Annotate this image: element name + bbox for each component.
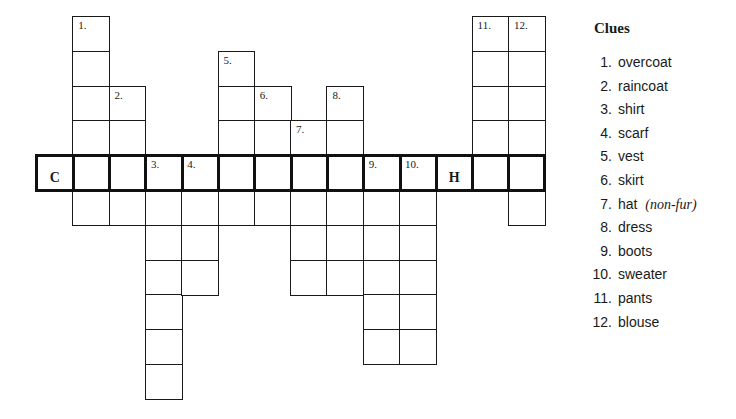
clue-item: 6.skirt (588, 169, 736, 193)
clue-number: 4. (588, 122, 612, 146)
grid-cell[interactable] (508, 155, 546, 191)
grid-cell[interactable]: 3. (145, 155, 183, 191)
grid-cell[interactable] (290, 260, 328, 296)
grid-cell[interactable]: 11. (472, 16, 510, 52)
clue-item: 11.pants (588, 287, 736, 311)
grid-cell[interactable]: 6. (254, 86, 292, 122)
clue-number: 11. (588, 287, 612, 311)
grid-cell[interactable] (254, 120, 292, 156)
grid-cell[interactable]: 12. (508, 16, 546, 52)
grid-cell[interactable] (145, 294, 183, 330)
grid-cell[interactable] (508, 86, 546, 122)
grid-cell[interactable] (363, 329, 401, 365)
grid-cell[interactable]: C (36, 155, 74, 191)
grid-cell[interactable] (254, 190, 292, 226)
grid-cell[interactable] (472, 120, 510, 156)
grid-cell[interactable] (290, 225, 328, 261)
grid-cell[interactable] (363, 190, 401, 226)
clue-item: 10.sweater (588, 263, 736, 287)
grid-cell[interactable]: 7. (290, 120, 328, 156)
grid-cell[interactable] (326, 190, 364, 226)
clue-item: 7.hat (non-fur) (588, 193, 736, 217)
grid-cell[interactable]: H (435, 155, 473, 191)
grid-cell[interactable] (109, 190, 147, 226)
grid-cell[interactable] (181, 190, 219, 226)
grid-cell[interactable]: 1. (72, 16, 110, 52)
grid-cell[interactable]: 9. (363, 155, 401, 191)
grid-cell[interactable] (218, 86, 256, 122)
grid-cell[interactable] (399, 260, 437, 296)
grid-cell[interactable] (109, 155, 147, 191)
grid-cell[interactable] (145, 329, 183, 365)
grid-cell[interactable] (218, 120, 256, 156)
grid-cell[interactable] (508, 120, 546, 156)
clue-number: 1. (588, 51, 612, 75)
clue-text: dress (618, 219, 652, 235)
clue-number: 5. (588, 145, 612, 169)
grid-cell[interactable] (472, 51, 510, 87)
grid-cell[interactable] (181, 260, 219, 296)
grid-cell[interactable] (472, 86, 510, 122)
grid-cell[interactable] (218, 155, 256, 191)
clue-number: 3. (588, 98, 612, 122)
clue-item: 2.raincoat (588, 75, 736, 99)
clue-item: 8.dress (588, 216, 736, 240)
grid-cell[interactable] (326, 225, 364, 261)
grid-cell[interactable] (290, 190, 328, 226)
grid-cell[interactable] (145, 260, 183, 296)
grid-cell[interactable] (145, 364, 183, 400)
clue-text: sweater (618, 266, 667, 282)
clue-number: 7. (588, 193, 612, 217)
grid-cell[interactable] (218, 190, 256, 226)
clue-text: blouse (618, 314, 659, 330)
clue-number: 2. (588, 75, 612, 99)
grid-cell[interactable] (326, 155, 364, 191)
grid-cell[interactable] (109, 120, 147, 156)
clue-number-label: 12. (514, 19, 528, 31)
given-letter: C (37, 170, 73, 186)
grid-cell[interactable] (399, 294, 437, 330)
grid-cell[interactable]: 5. (218, 51, 256, 87)
grid-cell[interactable] (508, 51, 546, 87)
clue-item: 4.scarf (588, 122, 736, 146)
clue-number: 10. (588, 263, 612, 287)
clue-text: skirt (618, 172, 644, 188)
grid-cell[interactable]: 4. (181, 155, 219, 191)
grid-cell[interactable] (72, 86, 110, 122)
grid-cell[interactable] (181, 225, 219, 261)
clue-text: vest (618, 148, 644, 164)
grid-cell[interactable] (399, 329, 437, 365)
grid-cell[interactable]: 10. (399, 155, 437, 191)
grid-cell[interactable] (363, 260, 401, 296)
clue-text: boots (618, 243, 652, 259)
grid-cell[interactable] (290, 155, 328, 191)
given-letter: H (436, 170, 472, 186)
grid-cell[interactable] (254, 155, 292, 191)
clue-item: 9.boots (588, 240, 736, 264)
grid-cell[interactable] (363, 225, 401, 261)
clue-number-label: 7. (296, 123, 304, 135)
clue-text: hat (618, 196, 637, 212)
grid-cell[interactable]: 2. (109, 86, 147, 122)
clue-item: 1.overcoat (588, 51, 736, 75)
grid-cell[interactable] (399, 225, 437, 261)
grid-cell[interactable] (145, 190, 183, 226)
clue-item: 3.shirt (588, 98, 736, 122)
grid-cell[interactable] (363, 294, 401, 330)
grid-cell[interactable]: 8. (326, 86, 364, 122)
grid-cell[interactable] (508, 190, 546, 226)
clue-number: 8. (588, 216, 612, 240)
grid-cell[interactable] (326, 120, 364, 156)
clue-note: (non-fur) (645, 197, 696, 212)
clue-text: pants (618, 290, 652, 306)
grid-cell[interactable] (472, 155, 510, 191)
grid-cell[interactable] (72, 120, 110, 156)
grid-cell[interactable] (145, 225, 183, 261)
crossword-grid: C1.2.3.4.5.6.7.8.9.10.H11.12. (0, 0, 560, 419)
grid-cell[interactable] (326, 260, 364, 296)
clue-number-label: 4. (187, 158, 195, 170)
grid-cell[interactable] (72, 190, 110, 226)
grid-cell[interactable] (72, 155, 110, 191)
grid-cell[interactable] (72, 51, 110, 87)
grid-cell[interactable] (399, 190, 437, 226)
